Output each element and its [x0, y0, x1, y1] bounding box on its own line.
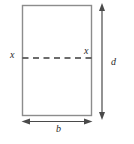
- cross-section-rect: [23, 6, 92, 116]
- axis-label-right: x: [84, 46, 88, 56]
- axis-label-left: x: [10, 50, 14, 60]
- breadth-arrowhead-left-icon: [22, 119, 31, 125]
- figure-drawing: [0, 0, 134, 144]
- breadth-arrowhead-right-icon: [84, 119, 93, 125]
- breadth-label: b: [56, 124, 61, 134]
- depth-label: d: [111, 57, 116, 67]
- depth-arrowhead-down-icon: [99, 112, 105, 120]
- depth-arrowhead-up-icon: [99, 3, 105, 11]
- cross-section-figure: x x d b: [0, 0, 134, 144]
